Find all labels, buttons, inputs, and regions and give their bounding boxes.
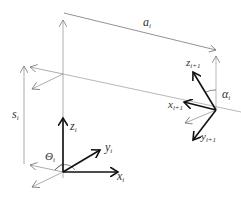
y-i-axis	[63, 150, 100, 172]
dh-diagram: ai αi si Θi zi yi xi zi+1 xi+1 yi+1	[0, 0, 241, 198]
prev-x-arrow	[30, 165, 63, 172]
label-z-i: zi	[69, 119, 77, 134]
label-y-i: yi	[104, 140, 112, 155]
mid-y-arrow	[32, 74, 63, 89]
link-length-arrow	[64, 13, 216, 50]
label-alpha: αi	[222, 87, 230, 102]
label-x-i: xi	[116, 169, 124, 184]
prev-y-arrow	[32, 172, 63, 187]
label-z-next: zi+1	[185, 56, 200, 70]
theta-pointer	[55, 163, 63, 170]
label-theta: Θi	[45, 150, 55, 164]
label-a: ai	[143, 15, 151, 30]
mid-x-arrow	[30, 67, 63, 74]
label-s: si	[12, 107, 19, 122]
label-y-next: yi+1	[200, 130, 216, 144]
label-x-next: xi+1	[167, 98, 183, 112]
alpha-arc	[206, 90, 216, 92]
